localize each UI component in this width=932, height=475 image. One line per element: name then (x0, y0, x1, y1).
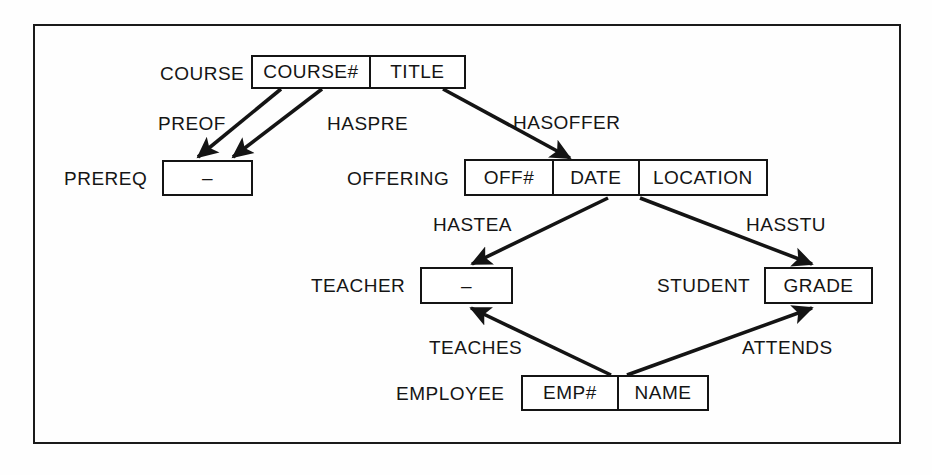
entity-label-student: STUDENT (657, 276, 750, 295)
entity-cell-student-grade: GRADE (766, 269, 871, 302)
entity-label-teacher: TEACHER (311, 276, 405, 295)
entity-cell-course-title: TITLE (369, 57, 464, 87)
relationship-label-hasoffer: HASOFFER (513, 113, 620, 132)
entity-cell-offering-date: DATE (552, 161, 638, 194)
entity-cell-course-number: COURSE# (253, 57, 369, 87)
relationship-label-hastea: HASTEA (433, 215, 512, 234)
entity-label-employee: EMPLOYEE (396, 384, 505, 403)
entity-cell-offering-number: OFF# (466, 161, 552, 194)
entity-cell-employee-name: NAME (617, 377, 707, 409)
entity-box-offering: OFF# DATE LOCATION (464, 159, 768, 196)
diagram-canvas: COURSE COURSE# TITLE PREREQ – OFFERING O… (0, 0, 932, 475)
entity-cell-prereq-empty: – (164, 162, 251, 194)
entity-box-course: COURSE# TITLE (251, 55, 466, 89)
entity-cell-offering-location: LOCATION (638, 161, 766, 194)
entity-label-course: COURSE (160, 64, 244, 83)
entity-box-teacher: – (420, 267, 513, 304)
relationship-label-haspre: HASPRE (327, 114, 408, 133)
entity-box-employee: EMP# NAME (521, 375, 709, 411)
relationship-label-preof: PREOF (158, 114, 226, 133)
relationship-label-teaches: TEACHES (429, 338, 522, 357)
entity-box-student: GRADE (764, 267, 873, 304)
relationship-label-attends: ATTENDS (742, 338, 833, 357)
relationship-label-hasstu: HASSTU (746, 215, 826, 234)
entity-label-prereq: PREREQ (64, 169, 147, 188)
entity-box-prereq: – (162, 160, 253, 196)
entity-cell-employee-number: EMP# (523, 377, 617, 409)
entity-cell-teacher-empty: – (422, 269, 511, 302)
entity-label-offering: OFFERING (347, 169, 449, 188)
